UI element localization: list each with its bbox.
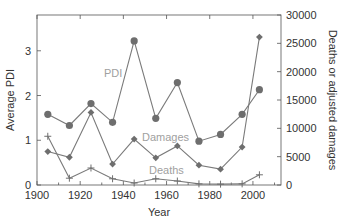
point-deaths	[217, 181, 224, 188]
point-pdi	[152, 115, 159, 122]
right-y-tick-label: 15000	[286, 94, 317, 106]
right-y-axis-title: Deaths or adjusted damages	[327, 30, 339, 171]
point-deaths	[87, 165, 94, 172]
line-damages	[48, 37, 260, 169]
point-damages	[88, 109, 95, 116]
point-deaths	[195, 180, 202, 187]
point-damages	[44, 148, 51, 155]
right-y-axis-ticks: 050001000015000200002500030000	[277, 9, 317, 191]
point-pdi	[217, 131, 224, 138]
point-pdi	[109, 119, 116, 126]
point-deaths	[109, 175, 116, 182]
point-pdi	[256, 86, 263, 93]
left-y-tick-label: 1	[25, 134, 31, 146]
point-pdi	[131, 37, 138, 44]
x-axis-title: Year	[148, 206, 171, 218]
chart: 190019201940196019802000 0123 0500010000…	[0, 0, 339, 224]
point-pdi	[239, 111, 246, 118]
series-pdi	[44, 37, 263, 144]
x-tick-label: 1960	[154, 189, 178, 201]
series-label-pdi: PDI	[104, 67, 122, 79]
point-damages	[66, 154, 73, 161]
point-deaths	[174, 178, 181, 185]
right-y-tick-label: 25000	[286, 37, 317, 49]
point-deaths	[131, 180, 138, 187]
left-y-axis-ticks: 0123	[25, 45, 41, 191]
series-damages	[44, 34, 262, 173]
plot-border	[37, 15, 281, 185]
point-deaths	[256, 171, 263, 178]
series-label-damages: Damages	[142, 131, 190, 143]
point-deaths	[66, 175, 73, 182]
right-y-tick-label: 30000	[286, 9, 317, 21]
x-tick-label: 2000	[241, 189, 265, 201]
point-pdi	[195, 138, 202, 145]
line-pdi	[48, 41, 260, 141]
point-deaths	[152, 175, 159, 182]
point-pdi	[66, 122, 73, 129]
left-y-tick-label: 2	[25, 90, 31, 102]
x-tick-label: 1920	[68, 189, 92, 201]
right-y-tick-label: 20000	[286, 66, 317, 78]
x-tick-label: 1940	[111, 189, 135, 201]
x-tick-label: 1980	[198, 189, 222, 201]
left-y-axis-title: Average PDI	[4, 69, 16, 131]
left-y-tick-label: 3	[25, 45, 31, 57]
right-y-tick-label: 10000	[286, 122, 317, 134]
right-y-tick-label: 5000	[286, 151, 310, 163]
point-deaths	[239, 180, 246, 187]
point-pdi	[174, 79, 181, 86]
point-pdi	[44, 111, 51, 118]
left-y-tick-label: 0	[25, 179, 31, 191]
point-damages	[256, 34, 263, 41]
line-deaths	[48, 136, 260, 184]
series-label-deaths: Deaths	[149, 164, 184, 176]
point-pdi	[87, 100, 94, 107]
point-deaths	[44, 133, 51, 140]
right-y-tick-label: 0	[286, 179, 292, 191]
plot-frame	[37, 15, 281, 185]
